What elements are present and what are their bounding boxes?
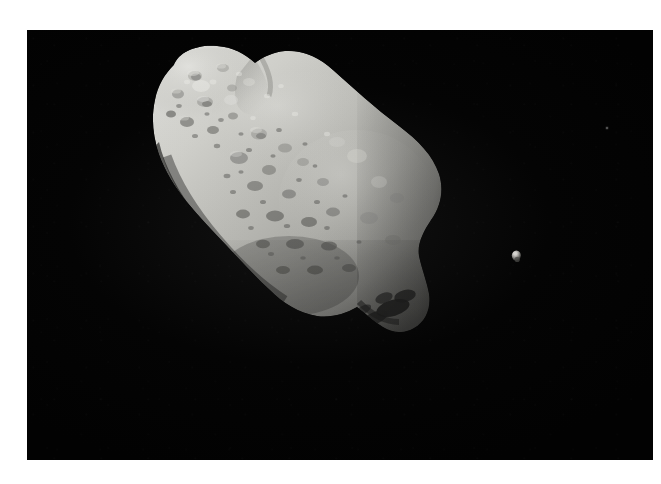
photo-plate [27,30,653,460]
caption-area [0,462,661,484]
asteroid-body-shading [27,30,653,460]
moon-dactyl [509,248,525,266]
asteroid-ida [27,30,653,460]
scanline-texture [27,30,653,460]
image-page [0,0,661,484]
